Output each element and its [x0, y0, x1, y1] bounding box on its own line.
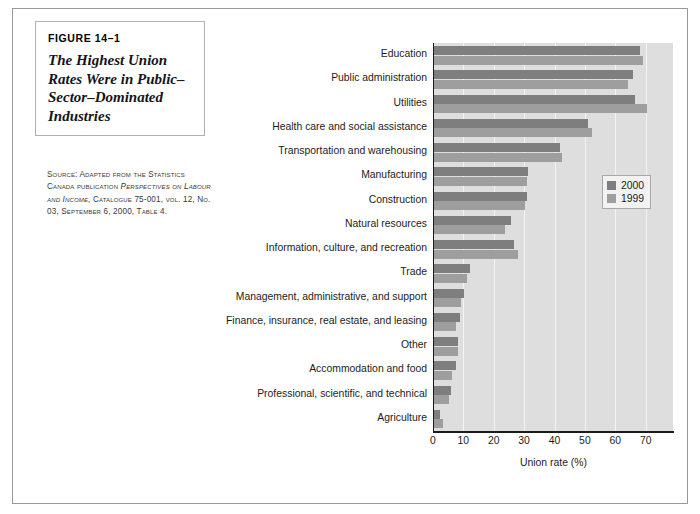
bar-2000 — [434, 216, 511, 225]
chart-legend: 2000 1999 — [602, 175, 651, 209]
bar-1999 — [434, 128, 592, 137]
category-label: Agriculture — [197, 412, 427, 423]
figure-frame: FIGURE 14–1 The Highest Union Rates Were… — [12, 8, 688, 504]
figure-number: FIGURE 14–1 — [48, 32, 192, 44]
bar-2000 — [434, 337, 458, 346]
bar-2000 — [434, 361, 456, 370]
bar-1999 — [434, 250, 518, 259]
bar-1999 — [434, 347, 458, 356]
x-tick-label: 70 — [634, 435, 658, 446]
union-rate-bar-chart: EducationPublic administrationUtilitiesH… — [201, 29, 691, 497]
bar-2000 — [434, 410, 440, 419]
legend-label-1999: 1999 — [621, 193, 644, 204]
bar-1999 — [434, 225, 505, 234]
legend-item-2000: 2000 — [607, 179, 644, 192]
bar-1999 — [434, 298, 461, 307]
category-label: Transportation and warehousing — [197, 145, 427, 156]
category-label: Finance, insurance, real estate, and lea… — [197, 315, 427, 326]
bar-1999 — [434, 395, 449, 404]
legend-swatch-2000-icon — [607, 181, 616, 190]
bar-1999 — [434, 274, 467, 283]
category-label: Other — [197, 339, 427, 350]
bar-2000 — [434, 143, 560, 152]
x-tick-label: 40 — [543, 435, 567, 446]
bar-2000 — [434, 46, 640, 55]
bar-1999 — [434, 56, 643, 65]
bar-1999 — [434, 419, 443, 428]
x-tick-label: 30 — [512, 435, 536, 446]
category-label: Accommodation and food — [197, 363, 427, 374]
category-label: Construction — [197, 194, 427, 205]
bar-1999 — [434, 153, 562, 162]
bar-1999 — [434, 371, 452, 380]
gridline — [646, 43, 647, 431]
bar-2000 — [434, 167, 528, 176]
bar-2000 — [434, 386, 451, 395]
category-label: Manufacturing — [197, 169, 427, 180]
bar-1999 — [434, 322, 456, 331]
bar-1999 — [434, 104, 647, 113]
category-label: Natural resources — [197, 218, 427, 229]
bar-2000 — [434, 240, 514, 249]
bar-2000 — [434, 95, 635, 104]
category-label: Management, administrative, and support — [197, 291, 427, 302]
x-tick-label: 0 — [421, 435, 445, 446]
bar-2000 — [434, 264, 470, 273]
x-tick-label: 10 — [451, 435, 475, 446]
bar-2000 — [434, 289, 464, 298]
category-label: Information, culture, and recreation — [197, 242, 427, 253]
x-axis-title: Union rate (%) — [433, 457, 674, 468]
x-axis-line — [433, 431, 674, 433]
legend-label-2000: 2000 — [621, 180, 644, 191]
legend-item-1999: 1999 — [607, 192, 644, 205]
bar-2000 — [434, 313, 460, 322]
figure-caption-box: FIGURE 14–1 The Highest Union Rates Were… — [35, 21, 205, 136]
category-label: Education — [197, 48, 427, 59]
bar-2000 — [434, 119, 588, 128]
bar-1999 — [434, 201, 525, 210]
legend-swatch-1999-icon — [607, 194, 616, 203]
bar-2000 — [434, 70, 633, 79]
category-label: Health care and social assistance — [197, 121, 427, 132]
category-label: Public administration — [197, 72, 427, 83]
bar-2000 — [434, 192, 527, 201]
figure-title: The Highest Union Rates Were in Public–S… — [48, 51, 192, 125]
category-label: Utilities — [197, 97, 427, 108]
category-label: Trade — [197, 266, 427, 277]
bar-1999 — [434, 80, 628, 89]
x-tick-label: 20 — [482, 435, 506, 446]
source-note: Source: Adapted from the Statistics Cana… — [47, 169, 212, 219]
category-label: Professional, scientific, and technical — [197, 388, 427, 399]
x-tick-label: 60 — [603, 435, 627, 446]
x-tick-label: 50 — [573, 435, 597, 446]
bar-1999 — [434, 177, 527, 186]
